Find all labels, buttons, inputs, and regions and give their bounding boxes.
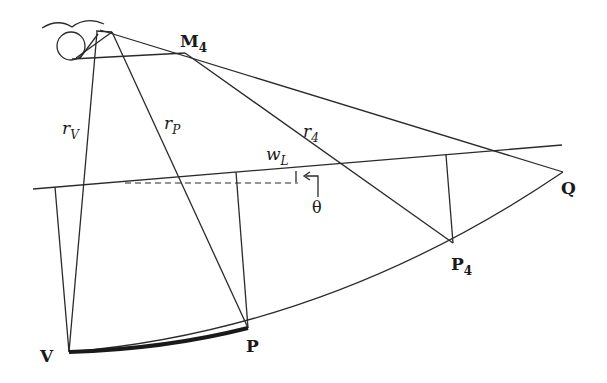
label-P: P [246, 338, 259, 355]
label-V: V [40, 348, 53, 365]
label-Q: Q [561, 180, 576, 197]
label-r4-main: r [303, 121, 311, 141]
label-wL-main: w [266, 144, 281, 164]
drop-V [55, 187, 69, 352]
diagram-svg [0, 0, 607, 383]
angle-theta-marker [296, 171, 318, 197]
label-M4: M4 [180, 33, 207, 50]
label-P4-main: P [451, 254, 464, 274]
label-theta: θ [312, 200, 322, 216]
eye-icon [42, 21, 112, 60]
ray-rP [112, 32, 248, 328]
label-P4-sub: 4 [464, 264, 472, 278]
label-rP-main: r [164, 113, 172, 133]
label-rV-main: r [62, 118, 70, 138]
label-rV: rV [62, 120, 79, 137]
label-P4: P4 [451, 256, 472, 273]
base-line [72, 53, 185, 59]
label-r4: r4 [303, 123, 319, 140]
drop-P4 [446, 155, 453, 243]
label-wL-sub: L [281, 154, 289, 168]
diagram-canvas: M4 rV rP r4 wL θ Q P4 V P [0, 0, 607, 383]
label-rP: rP [164, 115, 180, 132]
label-rV-sub: V [70, 128, 79, 142]
label-rP-sub: P [172, 123, 180, 137]
label-M4-main: M [180, 31, 199, 51]
label-r4-sub: 4 [311, 131, 319, 145]
label-M4-sub: 4 [199, 41, 207, 55]
ray-rV [69, 32, 97, 352]
label-wL: wL [266, 146, 289, 163]
